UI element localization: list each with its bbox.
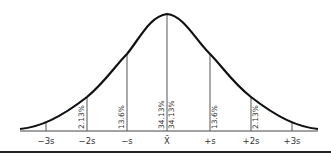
bottom-rule: [0, 151, 331, 153]
axis-label-minus1s: −s: [121, 136, 133, 146]
axis-label-mean: X̄: [164, 135, 170, 146]
axis-label-plus2s: +2s: [243, 136, 261, 146]
pct-left-1s2s: 13.6%: [117, 105, 126, 129]
bell-curve-diagram: 2.13% 13.6% 34.13% 34.13% 13.6% 2.13% −3…: [0, 0, 331, 157]
pct-right-2s3s: 2.13%: [251, 105, 260, 129]
pct-right-0-1s: 34.13%: [167, 100, 176, 129]
axis-label-plus3s: +3s: [284, 136, 302, 146]
axis-label-minus3s: −3s: [38, 136, 56, 146]
pct-left-0-1s: 34.13%: [157, 100, 166, 129]
pct-right-1s2s: 13.6%: [210, 105, 219, 129]
pct-left-2s3s: 2.13%: [77, 105, 86, 129]
axis-label-plus1s: +s: [204, 136, 216, 146]
axis-label-minus2s: −2s: [79, 136, 97, 146]
